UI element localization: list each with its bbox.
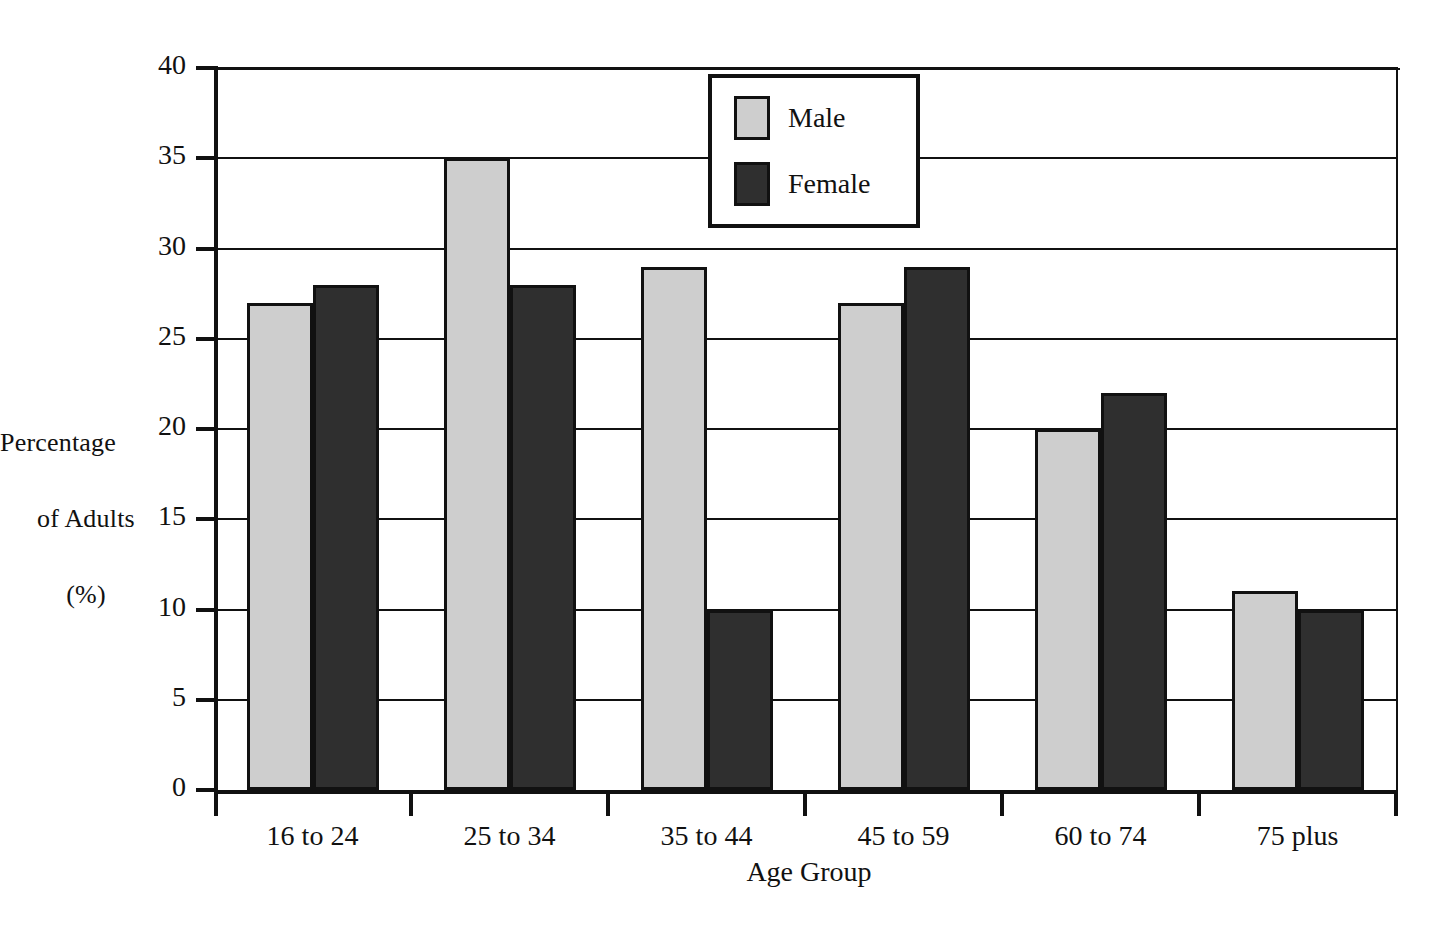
x-axis-tick (409, 794, 413, 816)
y-axis-tick-label: 20 (126, 410, 186, 442)
x-axis-label-60-to-74: 60 to 74 (1002, 820, 1199, 852)
legend-label-male: Male (788, 96, 846, 140)
bar-female-35-to-44 (707, 610, 773, 791)
legend-swatch-male-icon (734, 96, 770, 140)
x-axis-label-35-to-44: 35 to 44 (608, 820, 805, 852)
x-axis-tick (606, 794, 610, 816)
y-axis-tick-label: 5 (126, 681, 186, 713)
x-axis-label-75-plus: 75 plus (1199, 820, 1396, 852)
x-axis-tick (1197, 794, 1201, 816)
gridline (218, 338, 1398, 340)
y-axis-tick-label: 25 (126, 320, 186, 352)
bar-chart: Percentage of Adults (%) 051015202530354… (0, 0, 1448, 926)
gridline (218, 699, 1398, 701)
y-axis-tick-label: 15 (126, 500, 186, 532)
bar-male-60-to-74 (1035, 429, 1101, 790)
x-axis-end-tick (1394, 794, 1398, 816)
y-axis-tick (196, 698, 218, 702)
y-axis-tick (196, 517, 218, 521)
legend-swatch-female-icon (734, 162, 770, 206)
legend-item-male: Male (734, 96, 846, 140)
y-axis-tick-label: 30 (126, 230, 186, 262)
bar-female-25-to-34 (510, 285, 576, 790)
y-axis-tick-label: 40 (126, 49, 186, 81)
y-axis-tick-label: 10 (126, 591, 186, 623)
y-axis-tick (196, 427, 218, 431)
bar-female-75-plus (1298, 610, 1364, 791)
bar-female-45-to-59 (904, 267, 970, 790)
plot-right-border (1396, 68, 1398, 792)
x-axis-end-tick (214, 794, 218, 816)
y-axis-tick (196, 66, 218, 70)
x-axis-title: Age Group (0, 856, 1448, 888)
bar-male-45-to-59 (838, 303, 904, 790)
gridline (218, 428, 1398, 430)
bar-male-75-plus (1232, 591, 1298, 790)
y-axis-tick (196, 156, 218, 160)
y-axis-tick (196, 337, 218, 341)
gridline (218, 67, 1398, 69)
x-axis-label-45-to-59: 45 to 59 (805, 820, 1002, 852)
y-axis-tick (196, 608, 218, 612)
y-axis-tick (196, 247, 218, 251)
gridline (218, 248, 1398, 250)
bar-male-25-to-34 (444, 158, 510, 790)
legend-label-female: Female (788, 162, 870, 206)
gridline (218, 609, 1398, 611)
x-axis-tick (1000, 794, 1004, 816)
y-axis-tick-label: 0 (126, 771, 186, 803)
legend: Male Female (708, 74, 920, 228)
gridline (218, 518, 1398, 520)
x-axis-label-16-to-24: 16 to 24 (214, 820, 411, 852)
legend-item-female: Female (734, 162, 870, 206)
bar-male-35-to-44 (641, 267, 707, 790)
x-axis-label-25-to-34: 25 to 34 (411, 820, 608, 852)
y-axis-tick-label: 35 (126, 139, 186, 171)
x-axis-tick (803, 794, 807, 816)
bar-female-60-to-74 (1101, 393, 1167, 790)
bar-male-16-to-24 (247, 303, 313, 790)
bar-female-16-to-24 (313, 285, 379, 790)
